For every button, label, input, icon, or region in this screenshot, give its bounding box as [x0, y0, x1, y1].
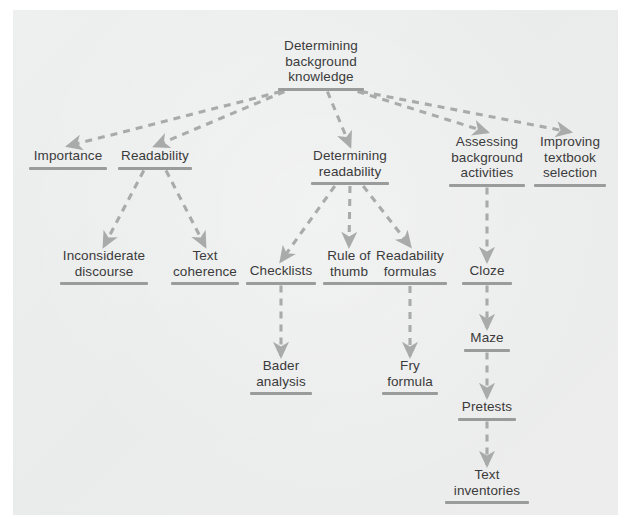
node-bader: Bader analysis [250, 358, 312, 395]
node-underline [445, 501, 529, 504]
node-underline [278, 88, 364, 91]
node-label: Importance [29, 148, 107, 164]
node-underline [171, 282, 239, 285]
node-underline [60, 282, 148, 285]
node-underline [373, 282, 447, 285]
node-label: Determining readability [311, 148, 389, 179]
node-pretests: Pretests [458, 399, 516, 421]
node-underline [118, 167, 192, 170]
node-read_form: Readability formulas [373, 248, 447, 285]
node-label: Bader analysis [250, 358, 312, 389]
node-improving: Improving textbook selection [534, 134, 606, 187]
node-cloze: Cloze [462, 263, 512, 285]
node-underline [29, 167, 107, 170]
node-underline [246, 282, 316, 285]
node-label: Maze [464, 330, 510, 346]
node-importance: Importance [29, 148, 107, 170]
node-rule_thumb: Rule of thumb [323, 248, 375, 285]
node-underline [323, 282, 375, 285]
node-text_coh: Text coherence [171, 248, 239, 285]
node-label: Cloze [462, 263, 512, 279]
node-underline [464, 349, 510, 352]
node-underline [462, 282, 512, 285]
node-readability: Readability [118, 148, 192, 170]
node-det_read: Determining readability [311, 148, 389, 185]
node-label: Inconsiderate discourse [60, 248, 148, 279]
node-label: Checklists [246, 263, 316, 279]
node-underline [534, 184, 606, 187]
node-underline [458, 418, 516, 421]
node-label: Readability [118, 148, 192, 164]
node-underline [382, 392, 438, 395]
node-assessing: Assessing background activities [449, 134, 525, 187]
node-label: Text coherence [171, 248, 239, 279]
node-underline [449, 184, 525, 187]
node-text_inv: Text inventories [445, 467, 529, 504]
node-label: Pretests [458, 399, 516, 415]
node-underline [311, 182, 389, 185]
node-label: Fry formula [382, 358, 438, 389]
node-label: Rule of thumb [323, 248, 375, 279]
node-underline [250, 392, 312, 395]
node-fry: Fry formula [382, 358, 438, 395]
diagram-screenshot: Determining background knowledgeImportan… [0, 0, 631, 527]
node-root: Determining background knowledge [278, 38, 364, 91]
node-label: Assessing background activities [449, 134, 525, 181]
node-label: Improving textbook selection [534, 134, 606, 181]
node-checklists: Checklists [246, 263, 316, 285]
node-maze: Maze [464, 330, 510, 352]
node-label: Determining background knowledge [278, 38, 364, 85]
node-label: Text inventories [445, 467, 529, 498]
node-inconsiderate: Inconsiderate discourse [60, 248, 148, 285]
node-label: Readability formulas [373, 248, 447, 279]
